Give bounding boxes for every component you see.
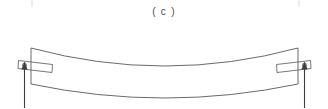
right-pin-support [277,61,312,109]
figure-panel-c: ( c ) [0,0,328,108]
beam-group [31,48,298,98]
crop-tick-group [32,0,299,7]
beam-bottom-edge [31,84,298,98]
beam-top-edge [31,48,298,66]
left-pin-support [18,61,53,109]
beam-diagram-svg [0,0,328,108]
